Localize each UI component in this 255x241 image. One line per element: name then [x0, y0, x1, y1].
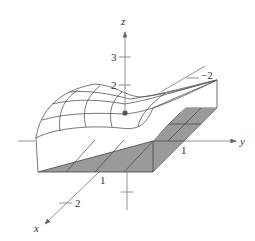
z-tick-label-3: 3	[111, 51, 117, 63]
y-tick-label-1: 1	[181, 144, 187, 156]
surface-diagram: z 3 2 −2 y 1 1 2 x	[0, 0, 255, 241]
marked-point	[122, 110, 127, 115]
x-tick-label-2: 2	[75, 197, 81, 209]
z-axis-label: z	[120, 15, 126, 27]
z-tick-label-2: 2	[111, 79, 117, 91]
x-tick-label-neg2: −2	[201, 69, 213, 81]
y-axis-label: y	[239, 135, 245, 147]
x-axis-label: x	[33, 222, 39, 234]
x-tick-label-1: 1	[100, 174, 106, 186]
